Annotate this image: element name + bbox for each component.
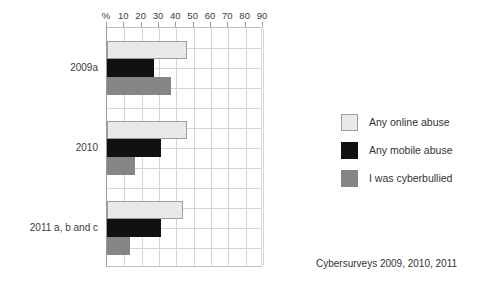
bar-2011-a-b-and-c-series-1 bbox=[107, 219, 161, 237]
grid-line-horizontal bbox=[107, 248, 261, 249]
y-axis-category-labels: 2009a20102011 a, b and c bbox=[0, 27, 98, 267]
category-label: 2009a bbox=[70, 62, 98, 73]
bar-2009a-series-0 bbox=[107, 41, 187, 59]
category-label: 2010 bbox=[76, 142, 98, 153]
bar-2009a-series-2 bbox=[107, 77, 171, 95]
legend-item: I was cyberbullied bbox=[341, 164, 476, 192]
x-tick-mark bbox=[262, 22, 263, 27]
legend-label: I was cyberbullied bbox=[369, 172, 452, 184]
bar-2011-a-b-and-c-series-2 bbox=[107, 237, 130, 255]
x-tick-label: 90 bbox=[249, 10, 275, 21]
bar-2009a-series-1 bbox=[107, 59, 154, 77]
legend-swatch-icon bbox=[341, 114, 358, 131]
bar-2011-a-b-and-c-series-0 bbox=[107, 201, 183, 219]
grid-line-vertical bbox=[211, 28, 212, 266]
grid-line-vertical bbox=[228, 28, 229, 266]
grid-line-vertical bbox=[263, 28, 264, 266]
legend-item: Any mobile abuse bbox=[341, 136, 476, 164]
grid-line-horizontal bbox=[107, 108, 261, 109]
chart-figure: %102030405060708090 2009a20102011 a, b a… bbox=[0, 0, 478, 288]
legend-label: Any online abuse bbox=[369, 116, 450, 128]
legend-swatch-icon bbox=[341, 142, 358, 159]
legend-swatch-icon bbox=[341, 170, 358, 187]
bar-2010-series-0 bbox=[107, 121, 187, 139]
legend-item: Any online abuse bbox=[341, 108, 476, 136]
bar-2010-series-1 bbox=[107, 139, 161, 157]
chart-legend: Any online abuseAny mobile abuseI was cy… bbox=[341, 108, 476, 192]
grid-line-horizontal bbox=[107, 188, 261, 189]
grid-line-vertical bbox=[246, 28, 247, 266]
grid-line-vertical bbox=[176, 28, 177, 266]
grid-line-vertical bbox=[194, 28, 195, 266]
legend-label: Any mobile abuse bbox=[369, 144, 452, 156]
bar-2010-series-2 bbox=[107, 157, 135, 175]
source-note: Cybersurveys 2009, 2010, 2011 bbox=[316, 258, 457, 269]
category-label: 2011 a, b and c bbox=[30, 222, 98, 233]
plot-area bbox=[106, 27, 262, 267]
